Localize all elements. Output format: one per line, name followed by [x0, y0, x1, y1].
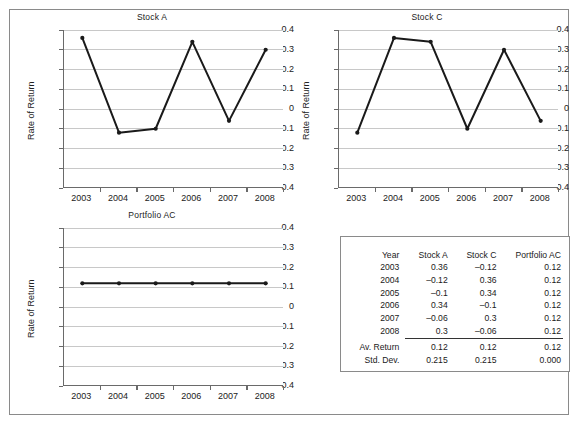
- data-point-marker: [80, 36, 84, 40]
- table-header-stock-a: Stock A: [405, 249, 453, 262]
- cell-year: 2005: [349, 287, 405, 300]
- series-layer: [64, 228, 284, 386]
- data-point-marker: [227, 119, 231, 123]
- x-tick-label: 2008: [243, 193, 287, 203]
- cell-stock-a: –0.12: [405, 274, 453, 287]
- chart-title-portfolio-ac: Portfolio AC: [10, 210, 294, 220]
- x-tick-mark: [136, 386, 137, 390]
- cell-stock-c: –0.1: [454, 300, 503, 313]
- table-row: 2004 –0.12 0.36 0.12: [349, 274, 563, 287]
- table-row: 2003 0.36 –0.12 0.12: [349, 262, 563, 275]
- table-summary-row-average: Av. Return 0.12 0.12 0.12: [349, 342, 563, 355]
- cell-stock-a: 0.34: [405, 300, 453, 313]
- x-tick-mark: [136, 188, 137, 192]
- table-row: 2007 –0.06 0.3 0.12: [349, 312, 563, 325]
- chart-panel-stock-a: Stock A Rate of Return 0.40.30.20.10-0.1…: [10, 10, 294, 210]
- data-point-marker: [392, 36, 396, 40]
- data-point-marker: [429, 40, 433, 44]
- data-point-marker: [502, 48, 506, 52]
- table-header-year: Year: [349, 249, 405, 262]
- cell-stock-a: 0.36: [405, 262, 453, 275]
- cell-stock-c: 0.3: [454, 312, 503, 325]
- cell-portfolio-ac: 0.12: [502, 325, 563, 338]
- cell-std-dev-stock-a: 0.215: [405, 355, 453, 368]
- data-point-marker: [154, 281, 158, 285]
- data-point-marker: [264, 48, 268, 52]
- data-point-marker: [465, 127, 469, 131]
- x-tick-mark: [283, 188, 284, 192]
- table-row: 2008 0.3 –0.06 0.12: [349, 325, 563, 338]
- cell-stock-a: –0.06: [405, 312, 453, 325]
- chart-panel-stock-c: Stock C Rate of Return 0.40.30.20.10-0.1…: [285, 10, 569, 210]
- cell-portfolio-ac: 0.12: [502, 274, 563, 287]
- x-tick-mark: [246, 188, 247, 192]
- cell-label-av-return: Av. Return: [349, 342, 405, 355]
- x-tick-mark: [100, 386, 101, 390]
- x-tick-mark: [173, 188, 174, 192]
- cell-stock-c: –0.12: [454, 262, 503, 275]
- chart-panel-portfolio-ac: Portfolio AC Rate of Return 0.40.30.20.1…: [10, 208, 294, 408]
- cell-portfolio-ac: 0.12: [502, 262, 563, 275]
- series-line: [82, 38, 265, 133]
- x-tick-mark: [485, 188, 486, 192]
- cell-stock-c: –0.06: [454, 325, 503, 338]
- x-tick-mark: [558, 188, 559, 192]
- series-line: [357, 38, 540, 133]
- cell-portfolio-ac: 0.12: [502, 287, 563, 300]
- series-layer: [64, 30, 284, 188]
- cell-year: 2004: [349, 274, 405, 287]
- cell-av-return-stock-a: 0.12: [405, 342, 453, 355]
- cell-std-dev-stock-c: 0.215: [454, 355, 503, 368]
- data-point-marker: [539, 119, 543, 123]
- data-point-marker: [190, 281, 194, 285]
- cell-std-dev-portfolio-ac: 0.000: [502, 355, 563, 368]
- data-point-marker: [117, 131, 121, 135]
- cell-year: 2008: [349, 325, 405, 338]
- series-layer: [339, 30, 559, 188]
- plot-area-stock-c: [338, 30, 558, 188]
- cell-year: 2003: [349, 262, 405, 275]
- cell-stock-c: 0.36: [454, 274, 503, 287]
- y-axis-label-stock-c: Rate of Return: [301, 81, 311, 140]
- cell-av-return-stock-c: 0.12: [454, 342, 503, 355]
- x-tick-label: 2008: [518, 193, 562, 203]
- plot-area-stock-a: [63, 30, 283, 188]
- table-header: Year Stock A Stock C Portfolio AC: [349, 249, 563, 262]
- data-point-marker: [355, 131, 359, 135]
- statistics-table: Year Stock A Stock C Portfolio AC 2003 0…: [349, 249, 563, 367]
- cell-portfolio-ac: 0.12: [502, 300, 563, 313]
- cell-stock-c: 0.34: [454, 287, 503, 300]
- table-summary-row-stddev: Std. Dev. 0.215 0.215 0.000: [349, 355, 563, 368]
- cell-av-return-portfolio-ac: 0.12: [502, 342, 563, 355]
- x-tick-mark: [100, 188, 101, 192]
- table-row: 2006 0.34 –0.1 0.12: [349, 300, 563, 313]
- x-tick-mark: [210, 386, 211, 390]
- x-tick-mark: [246, 386, 247, 390]
- y-axis-label-stock-a: Rate of Return: [26, 81, 36, 140]
- cell-stock-a: –0.1: [405, 287, 453, 300]
- x-tick-mark: [375, 188, 376, 192]
- table-row: 2005 –0.1 0.34 0.12: [349, 287, 563, 300]
- chart-title-stock-a: Stock A: [10, 12, 294, 22]
- data-point-marker: [190, 40, 194, 44]
- chart-title-stock-c: Stock C: [285, 12, 569, 22]
- figure-outer-frame: Stock A Rate of Return 0.40.30.20.10-0.1…: [9, 9, 569, 415]
- cell-portfolio-ac: 0.12: [502, 312, 563, 325]
- table-body: 2003 0.36 –0.12 0.12 2004 –0.12 0.36 0.1…: [349, 262, 563, 368]
- table-header-portfolio-ac: Portfolio AC: [502, 249, 563, 262]
- table-header-stock-c: Stock C: [454, 249, 503, 262]
- x-tick-mark: [411, 188, 412, 192]
- data-point-marker: [264, 281, 268, 285]
- plot-area-portfolio-ac: [63, 228, 283, 386]
- figure-root: Stock A Rate of Return 0.40.30.20.10-0.1…: [0, 0, 580, 427]
- x-tick-mark: [173, 386, 174, 390]
- statistics-table-panel: Year Stock A Stock C Portfolio AC 2003 0…: [340, 236, 570, 372]
- x-tick-mark: [283, 386, 284, 390]
- cell-year: 2006: [349, 300, 405, 313]
- cell-stock-a: 0.3: [405, 325, 453, 338]
- cell-year: 2007: [349, 312, 405, 325]
- data-point-marker: [80, 281, 84, 285]
- table-header-row: Year Stock A Stock C Portfolio AC: [349, 249, 563, 262]
- x-tick-mark: [521, 188, 522, 192]
- data-point-marker: [154, 127, 158, 131]
